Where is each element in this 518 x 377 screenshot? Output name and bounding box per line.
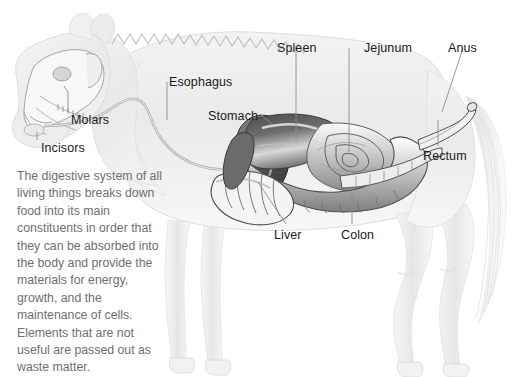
label-stomach: Stomach [208,110,258,123]
description-paragraph: The digestive system of all living thing… [17,168,167,377]
label-liver: Liver [274,229,302,242]
label-molars: Molars [71,114,109,127]
label-spleen: Spleen [277,42,317,55]
horse-digestive-system-figure: Incisors Molars Esophagus Stomach Spleen… [0,0,518,377]
label-rectum: Rectum [423,150,467,163]
label-esophagus: Esophagus [169,76,232,89]
label-incisors: Incisors [41,142,85,155]
label-jejunum: Jejunum [364,42,412,55]
label-colon: Colon [341,229,374,242]
label-anus: Anus [448,42,477,55]
